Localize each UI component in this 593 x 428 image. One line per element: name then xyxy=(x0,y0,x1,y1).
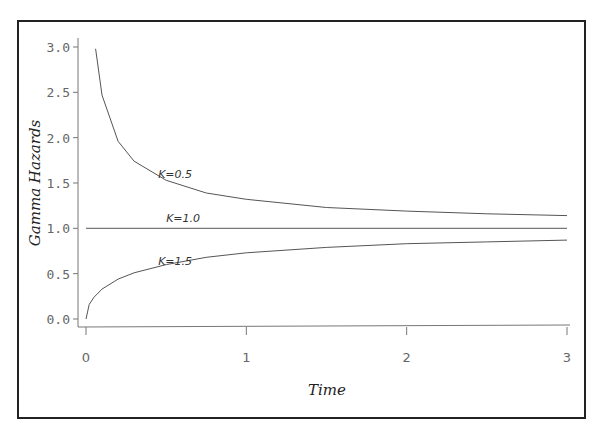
hazard-curve-05 xyxy=(96,49,567,216)
gamma-hazards-chart: 0.00.51.01.52.02.53.00123 K=0.5K=1.0K=1.… xyxy=(0,0,593,428)
x-tick-label: 1 xyxy=(242,350,250,365)
y-tick-label: 3.0 xyxy=(47,40,70,55)
x-tick-label: 2 xyxy=(403,350,411,365)
x-axis-label: Time xyxy=(308,381,346,399)
y-tick-label: 1.5 xyxy=(47,176,70,191)
curve-annotation: K=1.0 xyxy=(166,212,200,225)
curve-annotation: K=0.5 xyxy=(158,168,192,181)
y-tick-label: 0.0 xyxy=(47,312,70,327)
plot-area: K=0.5K=1.0K=1.5 xyxy=(86,49,567,319)
x-tick-label: 0 xyxy=(82,350,90,365)
y-tick-label: 2.0 xyxy=(47,131,70,146)
y-tick-label: 0.5 xyxy=(47,267,70,282)
y-tick-label: 2.5 xyxy=(47,85,70,100)
y-tick-label: 1.0 xyxy=(47,221,70,236)
figure-frame xyxy=(18,21,585,418)
axes: 0.00.51.01.52.02.53.00123 xyxy=(47,38,572,365)
hazard-curve-15 xyxy=(86,240,567,319)
y-axis-label: Gamma Hazards xyxy=(26,119,44,246)
x-axis-line xyxy=(78,325,570,327)
curve-annotation: K=1.5 xyxy=(158,255,192,268)
x-tick-label: 3 xyxy=(563,350,571,365)
